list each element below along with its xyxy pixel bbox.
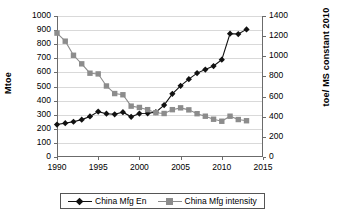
data-point <box>178 105 183 110</box>
x-axis-tick-label: 2010 <box>205 162 239 172</box>
series-china-mfg-en <box>54 26 250 127</box>
data-point <box>62 120 68 126</box>
data-point <box>128 103 133 108</box>
x-axis-tick-label: 1995 <box>81 162 115 172</box>
data-point <box>104 83 109 88</box>
y-axis-left-tick-label: 1000 <box>25 10 51 20</box>
legend-label: China Mfg En <box>95 196 147 206</box>
data-point <box>202 66 208 72</box>
y-axis-right-tick-label: 0 <box>269 151 295 161</box>
y-axis-left-title: Mtoe <box>3 61 13 105</box>
data-point <box>70 119 76 125</box>
y-axis-right-title: toe/ MS constant 2010 <box>321 2 331 112</box>
legend-square-icon <box>158 197 182 206</box>
x-axis-tickmark <box>222 157 223 160</box>
y-axis-right-tick-label: 1000 <box>269 50 295 60</box>
x-axis-tickmark <box>181 157 182 160</box>
x-axis-tick-label: 2015 <box>246 162 280 172</box>
y-axis-right-tickmark <box>263 137 266 138</box>
x-axis-tickmark <box>139 157 140 160</box>
y-axis-left-tick-label: 200 <box>25 123 51 133</box>
data-point <box>236 117 241 122</box>
y-axis-right-tick-label: 600 <box>269 91 295 101</box>
x-axis-tickmark <box>98 157 99 160</box>
data-point <box>153 110 158 115</box>
y-axis-left-tick-label: 0 <box>25 151 51 161</box>
y-axis-right-tick-label: 800 <box>269 70 295 80</box>
plot-area <box>57 16 263 157</box>
legend-item-0[interactable]: China Mfg En <box>68 196 147 206</box>
data-point <box>95 108 101 114</box>
x-axis-tick-label: 1990 <box>40 162 74 172</box>
x-axis-tickmark <box>57 157 58 160</box>
data-point <box>54 30 59 35</box>
y-axis-left-tick-label: 400 <box>25 95 51 105</box>
data-point <box>186 107 191 112</box>
legend-item-1[interactable]: China Mfg intensity <box>158 196 257 206</box>
data-point <box>120 109 126 115</box>
y-axis-right-tickmark <box>263 97 266 98</box>
y-axis-left-tick-label: 700 <box>25 52 51 62</box>
data-point <box>103 111 109 117</box>
data-point <box>71 53 76 58</box>
data-point <box>194 111 199 116</box>
data-point <box>235 31 241 37</box>
data-point <box>96 71 101 76</box>
data-point <box>244 118 249 123</box>
data-point <box>227 31 233 37</box>
data-point <box>145 107 150 112</box>
data-point <box>79 117 85 123</box>
y-axis-right-tick-label: 400 <box>269 111 295 121</box>
y-axis-right-tickmark <box>263 36 266 37</box>
data-point <box>54 121 60 127</box>
data-point <box>137 105 142 110</box>
data-point <box>63 38 68 43</box>
data-point <box>227 114 232 119</box>
data-point <box>161 111 166 116</box>
chart-container: Mtoe toe/ MS constant 2010 0100200300400… <box>0 0 343 217</box>
data-point <box>136 110 142 116</box>
y-axis-right-tick-label: 200 <box>269 131 295 141</box>
series-china-mfg-intensity <box>54 30 249 124</box>
data-point <box>87 113 93 119</box>
y-axis-right-tickmark <box>263 117 266 118</box>
y-axis-right-tick-label: 1200 <box>269 30 295 40</box>
y-axis-left-tick-label: 100 <box>25 137 51 147</box>
data-point <box>120 92 125 97</box>
y-axis-left-tick-label: 500 <box>25 81 51 91</box>
y-axis-left-tick-label: 300 <box>25 109 51 119</box>
data-point <box>203 114 208 119</box>
y-axis-left-tick-label: 900 <box>25 24 51 34</box>
data-point <box>170 107 175 112</box>
x-axis-tick-label: 2000 <box>122 162 156 172</box>
x-axis-tick-label: 2005 <box>164 162 198 172</box>
data-point <box>211 117 216 122</box>
y-axis-left-tick-label: 600 <box>25 66 51 76</box>
data-point <box>243 26 249 32</box>
data-point <box>128 114 134 120</box>
y-axis-right-tick-label: 1400 <box>269 10 295 20</box>
data-point <box>112 111 118 117</box>
data-point <box>87 71 92 76</box>
x-axis-tickmark <box>263 157 264 160</box>
data-series-layer <box>57 16 263 157</box>
legend-label: China Mfg intensity <box>185 196 257 206</box>
data-point <box>219 119 224 124</box>
data-point <box>79 61 84 66</box>
legend-diamond-icon <box>68 197 92 206</box>
chart-legend: China Mfg EnChina Mfg intensity <box>60 193 265 209</box>
data-point <box>112 91 117 96</box>
y-axis-right-tickmark <box>263 16 266 17</box>
y-axis-left-tick-label: 800 <box>25 38 51 48</box>
y-axis-right-tickmark <box>263 56 266 57</box>
y-axis-right-tickmark <box>263 76 266 77</box>
